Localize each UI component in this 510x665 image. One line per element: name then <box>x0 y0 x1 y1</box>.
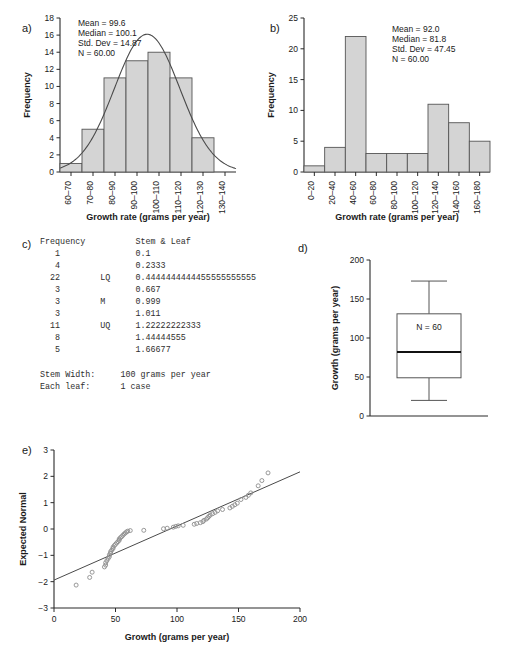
svg-text:16: 16 <box>45 30 55 40</box>
histogram-bar <box>345 36 366 172</box>
data-point <box>128 529 132 533</box>
svg-text:120–140: 120–140 <box>430 181 440 214</box>
histogram-bar <box>366 154 387 172</box>
svg-text:14: 14 <box>45 47 55 57</box>
svg-text:60–80: 60–80 <box>368 181 378 205</box>
stem-leaf-table: Frequency Stem & Leaf 1 0.1 4 0.2333 22 … <box>40 236 256 393</box>
svg-text:2: 2 <box>49 150 54 160</box>
svg-text:0: 0 <box>52 614 57 624</box>
histogram-bar <box>82 129 104 172</box>
svg-text:20: 20 <box>289 44 299 54</box>
svg-text:200: 200 <box>293 614 307 624</box>
svg-text:4: 4 <box>49 133 54 143</box>
data-point <box>90 570 94 574</box>
svg-text:−1: −1 <box>38 550 48 560</box>
panel-e-label: e) <box>22 444 32 456</box>
data-point <box>181 523 185 527</box>
svg-text:0: 0 <box>359 411 364 421</box>
svg-text:15: 15 <box>289 75 299 85</box>
svg-text:0: 0 <box>293 167 298 177</box>
data-point <box>88 575 92 579</box>
svg-text:20–40: 20–40 <box>327 181 337 205</box>
panel-d-svg: 050100150200N = 60Growth (grams per year… <box>292 236 510 436</box>
svg-text:70–80: 70–80 <box>85 181 95 205</box>
svg-text:200: 200 <box>350 255 364 265</box>
svg-text:25: 25 <box>289 13 299 23</box>
svg-text:8: 8 <box>49 99 54 109</box>
svg-text:0: 0 <box>49 167 54 177</box>
data-point <box>256 484 260 488</box>
stat-annotation: N = 60.00 <box>392 54 429 64</box>
stat-annotation: N = 60.00 <box>78 48 115 58</box>
svg-text:100: 100 <box>350 333 364 343</box>
svg-text:10: 10 <box>45 81 55 91</box>
svg-text:80–100: 80–100 <box>389 181 399 210</box>
histogram-bar <box>304 166 325 172</box>
svg-text:1: 1 <box>43 498 48 508</box>
data-point <box>266 471 270 475</box>
svg-text:50: 50 <box>111 614 121 624</box>
histogram-bar <box>60 163 82 172</box>
svg-text:60–70: 60–70 <box>63 181 73 205</box>
data-point <box>221 508 225 512</box>
y-axis-title: Growth (grams per year) <box>330 286 340 391</box>
stat-annotation: N = 60 <box>416 322 442 332</box>
panel-a-histogram: a) 02468101214161860–7070–8080–9090–1001… <box>0 0 250 232</box>
panel-d-boxplot: d) 050100150200N = 60Growth (grams per y… <box>292 236 510 436</box>
svg-text:−3: −3 <box>38 603 48 613</box>
y-axis-title: Expected Normal <box>18 492 28 566</box>
stat-annotation: Std. Dev = 14.87 <box>78 38 142 48</box>
histogram-bar <box>407 154 428 172</box>
histogram-bar <box>148 52 170 172</box>
svg-text:18: 18 <box>45 13 55 23</box>
svg-text:12: 12 <box>45 64 55 74</box>
panel-b-svg: 05101520250–2020–4040–6060–8080–100100–1… <box>252 0 510 232</box>
svg-text:150: 150 <box>231 614 245 624</box>
svg-text:40–60: 40–60 <box>348 181 358 205</box>
panel-b-histogram: b) 05101520250–2020–4040–6060–8080–10010… <box>252 0 510 232</box>
histogram-bar <box>387 154 408 172</box>
histogram-bar <box>126 61 148 172</box>
y-axis-title: Frequency <box>22 72 32 118</box>
svg-text:150: 150 <box>350 294 364 304</box>
x-axis-title: Growth (grams per year) <box>125 632 230 642</box>
panel-e-qqplot: e) −3−2−10123050100150200Expected Normal… <box>0 440 350 660</box>
panel-d-label: d) <box>298 242 308 254</box>
stat-annotation: Mean = 92.0 <box>392 24 440 34</box>
data-point <box>142 528 146 532</box>
svg-text:2: 2 <box>43 471 48 481</box>
svg-text:0: 0 <box>43 524 48 534</box>
panel-a-label: a) <box>22 22 32 34</box>
svg-text:−2: −2 <box>38 577 48 587</box>
data-point <box>74 583 78 587</box>
histogram-bar <box>469 141 490 172</box>
x-axis-title: Growth rate (grams per year) <box>86 212 210 222</box>
histogram-bar <box>449 123 470 172</box>
histogram-bar <box>104 78 126 172</box>
panel-b-label: b) <box>270 22 280 34</box>
reference-line <box>54 472 300 580</box>
svg-text:3: 3 <box>43 445 48 455</box>
svg-text:110–120: 110–120 <box>173 181 183 214</box>
svg-text:100: 100 <box>170 614 184 624</box>
data-point <box>260 479 264 483</box>
histogram-bar <box>192 138 214 172</box>
svg-text:120–130: 120–130 <box>195 181 205 214</box>
histogram-bar <box>428 104 449 172</box>
svg-text:90–100: 90–100 <box>129 181 139 210</box>
stat-annotation: Median = 81.8 <box>392 34 446 44</box>
stat-annotation: Median = 100.1 <box>78 28 137 38</box>
figure-caption <box>22 655 442 665</box>
svg-text:80–90: 80–90 <box>107 181 117 205</box>
panel-a-svg: 02468101214161860–7070–8080–9090–100100–… <box>0 0 250 232</box>
svg-text:140–160: 140–160 <box>451 181 461 214</box>
svg-text:160–180: 160–180 <box>472 181 482 214</box>
stat-annotation: Std. Dev = 47.45 <box>392 44 456 54</box>
svg-text:50: 50 <box>355 372 365 382</box>
x-axis-title: Growth rate (grams per year) <box>335 212 459 222</box>
histogram-bar <box>325 147 346 172</box>
svg-text:5: 5 <box>293 136 298 146</box>
panel-e-svg: −3−2−10123050100150200Expected NormalGro… <box>0 440 350 660</box>
stat-annotation: Mean = 99.6 <box>78 18 126 28</box>
svg-text:0–20: 0–20 <box>306 181 316 200</box>
